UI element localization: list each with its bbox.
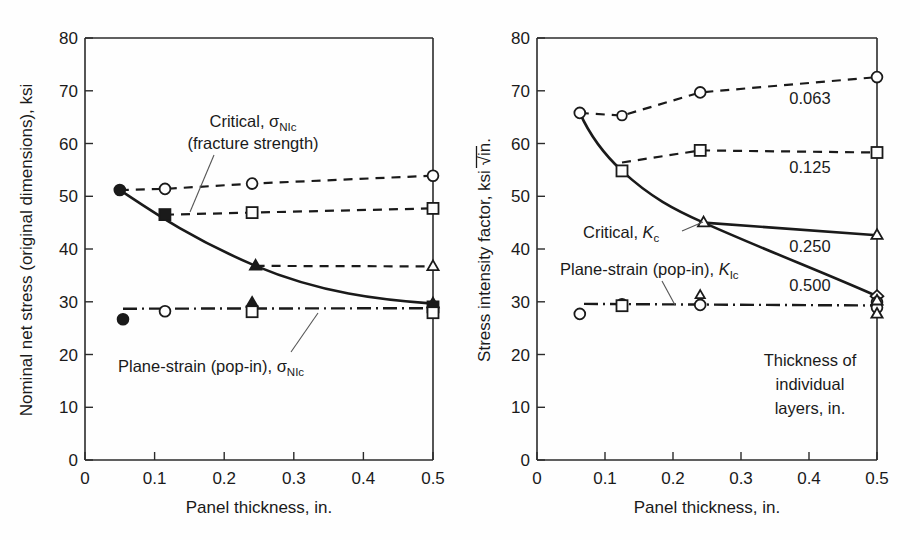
marker-open-circle (695, 87, 706, 98)
left-critical-curve (120, 190, 433, 304)
label-0125: 0.125 (789, 158, 830, 176)
svg-text:40: 40 (511, 240, 530, 259)
svg-text:0.3: 0.3 (729, 469, 753, 488)
svg-text:0.4: 0.4 (352, 469, 376, 488)
svg-text:0.1: 0.1 (143, 469, 167, 488)
marker-open-square (428, 307, 439, 318)
label-0063: 0.063 (789, 89, 830, 107)
marker-open-circle (574, 108, 585, 119)
svg-text:Critical, Kc: Critical, Kc (583, 223, 660, 244)
marker-open-circle (617, 111, 627, 121)
right-x-tick-labels: 0 0.1 0.2 0.3 0.4 0.5 (532, 469, 889, 488)
svg-text:Plane-strain (pop-in), KIc: Plane-strain (pop-in), KIc (560, 260, 739, 281)
left-y-ticks (85, 38, 93, 460)
svg-text:0: 0 (80, 469, 89, 488)
marker-open-circle (160, 184, 171, 195)
marker-open-circle (247, 178, 258, 189)
svg-text:70: 70 (59, 82, 78, 101)
marker-open-square (247, 306, 258, 317)
marker-open-circle (574, 309, 585, 320)
leader-line-plane-strain (291, 313, 318, 352)
marker-open-circle (428, 170, 439, 181)
figure-root: Nominal net stress (original dimensions)… (0, 0, 920, 540)
plane-strain-annot-sub: NIc (287, 366, 305, 378)
marker-open-circle (695, 300, 706, 311)
svg-text:20: 20 (59, 346, 78, 365)
right-x-axis-title: Panel thickness, in. (634, 498, 780, 517)
marker-open-circle (160, 306, 171, 317)
svg-text:0.5: 0.5 (865, 469, 889, 488)
label-0500: 0.500 (789, 276, 830, 294)
plane-strain-annot-text: Plane-strain (pop-in), σ (118, 357, 287, 375)
svg-text:0.2: 0.2 (661, 469, 685, 488)
left-x-tick-labels: 0 0.1 0.2 0.3 0.4 0.5 (80, 469, 445, 488)
right-plane-strain-kic-annotation: Plane-strain (pop-in), KIc (560, 260, 739, 305)
plane-strain-kic-sub: Ic (730, 269, 739, 281)
marker-open-circle (872, 72, 883, 83)
left-series-0125-line (165, 208, 433, 214)
marker-open-square (872, 147, 883, 158)
svg-text:20: 20 (511, 346, 530, 365)
right-series-0063-line (580, 77, 877, 116)
critical-kc-sub: c (654, 232, 660, 244)
chart-panel-left: Nominal net stress (original dimensions)… (0, 0, 460, 540)
svg-text:50: 50 (511, 187, 530, 206)
marker-open-square (695, 145, 706, 156)
right-data-markers (574, 72, 883, 320)
marker-open-square (617, 165, 628, 176)
left-chart-svg: Nominal net stress (original dimensions)… (0, 0, 460, 540)
svg-text:Critical, σNIc: Critical, σNIc (209, 112, 296, 133)
plane-strain-kic-text: Plane-strain (pop-in), (560, 260, 719, 278)
svg-text:0: 0 (521, 451, 530, 470)
left-axis-frame (85, 38, 433, 460)
left-y-tick-labels: 0 10 20 30 40 50 60 70 80 (59, 29, 78, 470)
svg-text:80: 80 (511, 29, 530, 48)
svg-text:0.2: 0.2 (212, 469, 236, 488)
marker-open-triangle (427, 260, 438, 270)
right-y-tick-labels: 0 10 20 30 40 50 60 70 80 (511, 29, 530, 470)
critical-annot-line1: Critical, σ (209, 112, 279, 130)
left-x-axis-title: Panel thickness, in. (186, 498, 332, 517)
left-y-axis-title: Nominal net stress (original dimensions)… (17, 84, 36, 417)
chart-panel-right: Stress intensity factor, ksi √in. (460, 0, 920, 540)
svg-text:0: 0 (69, 451, 78, 470)
svg-text:0.5: 0.5 (421, 469, 445, 488)
left-x-ticks (85, 452, 433, 460)
right-y-axis-title: Stress intensity factor, ksi √in. (475, 138, 494, 362)
svg-text:30: 30 (511, 293, 530, 312)
svg-text:60: 60 (59, 135, 78, 154)
marker-open-square (617, 300, 628, 311)
marker-filled-triangle (247, 297, 258, 307)
svg-text:0.3: 0.3 (282, 469, 306, 488)
svg-text:50: 50 (59, 187, 78, 206)
critical-kc-text: Critical, (583, 223, 643, 241)
right-chart-svg: Stress intensity factor, ksi √in. (460, 0, 920, 540)
label-0250: 0.250 (789, 237, 830, 255)
critical-annot-sub: NIc (279, 121, 297, 133)
svg-text:10: 10 (511, 398, 530, 417)
svg-text:Plane-strain (pop-in), σNIc: Plane-strain (pop-in), σNIc (118, 357, 304, 378)
svg-text:0: 0 (532, 469, 541, 488)
leader-line-critical (190, 155, 214, 212)
right-critical-kc-annotation: Critical, Kc (583, 222, 703, 244)
svg-text:60: 60 (511, 135, 530, 154)
svg-text:40: 40 (59, 240, 78, 259)
right-y-ticks (537, 38, 545, 460)
marker-filled-circle (118, 314, 129, 325)
critical-annot-line2: (fracture strength) (187, 134, 318, 152)
thickness-caption: Thickness of individual layers, in. (764, 351, 857, 417)
thickness-caption-line1: Thickness of (764, 351, 857, 369)
leader-line-kic (662, 281, 675, 305)
right-series-0125-line (622, 150, 877, 162)
left-plane-strain-annotation: Plane-strain (pop-in), σNIc (118, 313, 318, 378)
svg-text:Stress intensity factor, ksi √: Stress intensity factor, ksi √in. (475, 138, 494, 362)
svg-text:0.1: 0.1 (593, 469, 617, 488)
thickness-caption-line2: individual (776, 375, 845, 393)
marker-filled-square (159, 209, 170, 220)
left-critical-annotation: Critical, σNIc (fracture strength) (187, 112, 318, 212)
svg-text:80: 80 (59, 29, 78, 48)
left-data-markers (114, 170, 438, 324)
svg-text:70: 70 (511, 82, 530, 101)
thickness-caption-line3: layers, in. (775, 399, 846, 417)
svg-text:30: 30 (59, 293, 78, 312)
